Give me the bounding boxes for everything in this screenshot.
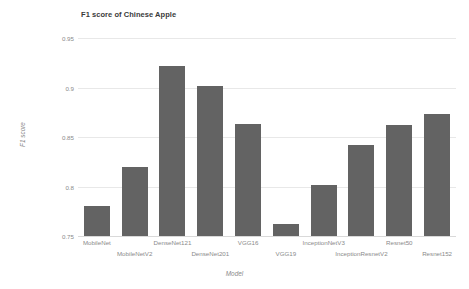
- y-tick-label: 0.75: [62, 233, 74, 240]
- y-tick-label: 0.9: [65, 84, 74, 91]
- x-tick-label: Resnet152: [422, 250, 452, 257]
- x-tick-label: InceptionResnetV2: [335, 250, 387, 257]
- x-tick-label: MobileNetV2: [117, 250, 152, 257]
- y-tick-label: 0.8: [65, 183, 74, 190]
- x-axis-tick-labels: MobileNetMobileNetV2DenseNet121DenseNet2…: [78, 0, 456, 289]
- y-axis-tick-labels: 0.750.80.850.90.95: [48, 0, 74, 289]
- chart-figure: F1 score of Chinese Apple 0.750.80.850.9…: [0, 0, 469, 289]
- x-tick-label: DenseNet121: [154, 239, 192, 246]
- y-axis-title: F1 score: [19, 105, 26, 165]
- x-tick-label: MobileNet: [83, 239, 111, 246]
- x-tick-label: VGG16: [238, 239, 259, 246]
- x-tick-label: InceptionNetV3: [303, 239, 345, 246]
- y-tick-label: 0.85: [62, 134, 74, 141]
- x-tick-label: Resnet50: [386, 239, 413, 246]
- x-tick-label: VGG19: [276, 250, 297, 257]
- y-tick-label: 0.95: [62, 35, 74, 42]
- x-axis-title: Model: [0, 270, 469, 277]
- x-tick-label: DenseNet201: [191, 250, 229, 257]
